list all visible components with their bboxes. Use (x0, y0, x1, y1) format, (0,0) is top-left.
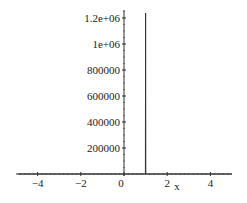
x-tick-label: 4 (208, 177, 214, 189)
x-tick-label: −4 (32, 177, 44, 189)
x-tick-label: 2 (164, 177, 170, 189)
x-axis-label: x (174, 180, 180, 192)
plot-canvas: −4−2024 2000004000006000008000001e+061.2… (0, 0, 247, 203)
y-tick-label: 1.2e+06 (84, 12, 120, 24)
y-tick-label: 600000 (87, 90, 121, 102)
x-tick-label: −2 (75, 177, 87, 189)
y-tick-label: 200000 (87, 142, 121, 154)
y-tick-label: 1e+06 (92, 38, 120, 50)
y-tick-label: 400000 (87, 116, 121, 128)
y-tick-labels: 2000004000006000008000001e+061.2e+06 (84, 12, 126, 154)
data-series-line (18, 13, 232, 174)
x-tick-label: 0 (118, 177, 124, 189)
y-tick-label: 800000 (87, 64, 121, 76)
